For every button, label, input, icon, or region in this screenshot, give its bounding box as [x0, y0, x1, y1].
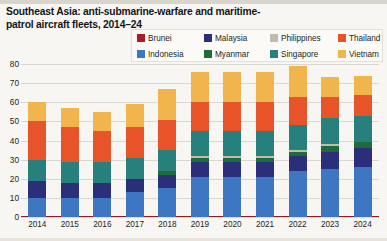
bar-segment-singapore[interactable] [354, 116, 372, 143]
bar-segment-thailand[interactable] [321, 97, 339, 118]
bar-segment-malaysia[interactable] [321, 152, 339, 169]
stacked-bar[interactable] [191, 72, 209, 217]
bar-segment-singapore[interactable] [191, 131, 209, 156]
bar-segment-thailand[interactable] [223, 102, 241, 131]
bar-segment-indonesia[interactable] [321, 169, 339, 217]
bar-segment-malaysia[interactable] [61, 183, 79, 198]
bar-segment-thailand[interactable] [256, 102, 274, 131]
bar-segment-vietnam[interactable] [126, 104, 144, 127]
top-divider [0, 0, 387, 4]
bar-segment-indonesia[interactable] [289, 171, 307, 217]
bar-group-2014[interactable] [21, 64, 54, 217]
legend-item-thailand[interactable]: Thailand [338, 30, 387, 46]
y-axis-tick-label: 30 [3, 155, 19, 165]
stacked-bar[interactable] [93, 112, 111, 217]
x-axis-labels: 2014201520162017201820192020202120222023… [21, 219, 379, 233]
bar-segment-thailand[interactable] [191, 102, 209, 131]
bar-segment-vietnam[interactable] [61, 108, 79, 127]
stacked-bar[interactable] [28, 102, 46, 217]
bar-group-2022[interactable] [281, 64, 314, 217]
bar-group-2020[interactable] [216, 64, 249, 217]
stacked-bar[interactable] [289, 66, 307, 217]
bar-segment-indonesia[interactable] [158, 188, 176, 217]
bar-segment-malaysia[interactable] [191, 162, 209, 177]
bar-segment-malaysia[interactable] [126, 179, 144, 192]
bar-segment-vietnam[interactable] [289, 66, 307, 97]
legend-item-label: Vietnam [349, 50, 379, 59]
bar-group-2024[interactable] [346, 64, 379, 217]
legend-item-philippines[interactable]: Philippines [270, 30, 338, 46]
bar-segment-singapore[interactable] [93, 162, 111, 183]
stacked-bar[interactable] [61, 108, 79, 217]
bar-segment-vietnam[interactable] [158, 89, 176, 120]
legend-item-label: Indonesia [148, 50, 184, 59]
legend-item-label: Brunei [148, 34, 172, 43]
stacked-bar[interactable] [321, 77, 339, 217]
stacked-bar[interactable] [158, 89, 176, 217]
bar-segment-thailand[interactable] [93, 131, 111, 162]
bar-segment-indonesia[interactable] [61, 198, 79, 217]
bar-segment-malaysia[interactable] [158, 175, 176, 188]
bar-segment-indonesia[interactable] [256, 177, 274, 217]
bar-segment-vietnam[interactable] [321, 77, 339, 96]
legend-item-malaysia[interactable]: Malaysia [204, 30, 270, 46]
bar-segment-thailand[interactable] [158, 120, 176, 151]
bar-segment-singapore[interactable] [321, 118, 339, 145]
bar-group-2019[interactable] [184, 64, 217, 217]
legend-item-brunei[interactable]: Brunei [137, 30, 204, 46]
bar-segment-singapore[interactable] [158, 150, 176, 171]
x-axis-tick-label: 2022 [281, 219, 314, 233]
legend-item-singapore[interactable]: Singapore [270, 46, 338, 62]
bar-segment-thailand[interactable] [28, 121, 46, 159]
legend-swatch-icon [137, 50, 145, 58]
bar-group-2015[interactable] [54, 64, 87, 217]
bar-segment-singapore[interactable] [289, 125, 307, 150]
legend-swatch-icon [270, 50, 278, 58]
stacked-bar[interactable] [126, 104, 144, 217]
bar-segment-indonesia[interactable] [354, 167, 372, 217]
bar-segment-vietnam[interactable] [223, 72, 241, 103]
stacked-bar[interactable] [256, 72, 274, 217]
bar-segment-singapore[interactable] [223, 131, 241, 156]
bar-segment-singapore[interactable] [61, 162, 79, 183]
bar-segment-malaysia[interactable] [93, 183, 111, 198]
bar-segment-thailand[interactable] [126, 127, 144, 158]
bar-group-2023[interactable] [314, 64, 347, 217]
y-axis-tick-label: 10 [3, 193, 19, 203]
legend-item-myanmar[interactable]: Myanmar [204, 46, 270, 62]
bar-segment-indonesia[interactable] [223, 177, 241, 217]
bar-group-2021[interactable] [249, 64, 282, 217]
bar-segment-indonesia[interactable] [126, 192, 144, 217]
bar-segment-thailand[interactable] [354, 95, 372, 116]
bar-group-2016[interactable] [86, 64, 119, 217]
bar-segment-indonesia[interactable] [93, 198, 111, 217]
bar-segment-indonesia[interactable] [191, 177, 209, 217]
bar-segment-malaysia[interactable] [289, 156, 307, 171]
legend-item-label: Myanmar [215, 50, 249, 59]
x-axis-tick-label: 2016 [86, 219, 119, 233]
x-axis-tick-label: 2017 [119, 219, 152, 233]
bar-segment-vietnam[interactable] [191, 72, 209, 103]
legend-item-vietnam[interactable]: Vietnam [338, 46, 387, 62]
bar-segment-singapore[interactable] [28, 160, 46, 181]
bar-segment-malaysia[interactable] [354, 148, 372, 167]
bar-segment-malaysia[interactable] [256, 162, 274, 177]
bar-segment-singapore[interactable] [126, 158, 144, 179]
chart-legend: BruneiMalaysiaPhilippinesThailandIndones… [131, 29, 383, 62]
legend-item-indonesia[interactable]: Indonesia [137, 46, 204, 62]
bar-group-2018[interactable] [151, 64, 184, 217]
bar-segment-malaysia[interactable] [223, 162, 241, 177]
bar-segment-malaysia[interactable] [28, 181, 46, 198]
bar-group-2017[interactable] [119, 64, 152, 217]
bar-segment-vietnam[interactable] [256, 72, 274, 103]
stacked-bar[interactable] [223, 72, 241, 217]
legend-swatch-icon [270, 34, 278, 42]
bar-segment-thailand[interactable] [289, 97, 307, 126]
bar-segment-vietnam[interactable] [93, 112, 111, 131]
bar-segment-vietnam[interactable] [354, 76, 372, 95]
bar-segment-vietnam[interactable] [28, 102, 46, 121]
bar-segment-singapore[interactable] [256, 131, 274, 156]
stacked-bar[interactable] [354, 76, 372, 218]
bar-segment-thailand[interactable] [61, 127, 79, 161]
bar-segment-indonesia[interactable] [28, 198, 46, 217]
